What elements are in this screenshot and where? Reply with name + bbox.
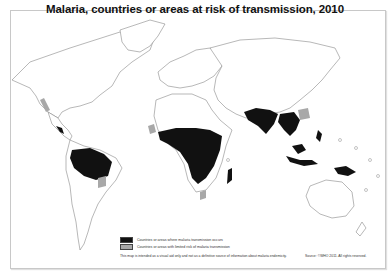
limited-risk-north-africa [148, 124, 156, 134]
greenland [120, 20, 165, 52]
legend-item-limited-risk: Countries or areas with limited risk of … [120, 243, 230, 250]
disclaimer-note: This map is intended as a visual aid onl… [120, 254, 287, 258]
legend-label: Countries or areas with limited risk of … [137, 245, 230, 249]
limited-risk-brazil [98, 176, 106, 188]
asia [210, 38, 340, 118]
world-map [0, 0, 390, 276]
source-credit: Source: ©WHO 2011. All rights reserved. [305, 254, 366, 258]
transmission-south-asia [244, 108, 278, 134]
europe [158, 48, 222, 88]
central-america [48, 112, 72, 140]
transmission-png [334, 166, 356, 176]
limited-risk-swatch [120, 244, 133, 250]
transmission-southeast-asia [278, 112, 300, 136]
transmission-philippines [316, 130, 322, 142]
map-legend: Countries or areas where malaria transmi… [120, 236, 230, 250]
transmission-borneo [292, 144, 306, 154]
new-zealand [356, 222, 366, 236]
legend-label: Countries or areas where malaria transmi… [137, 238, 223, 242]
legend-item-transmission: Countries or areas where malaria transmi… [120, 236, 230, 243]
transmission-madagascar [227, 168, 232, 184]
limited-risk-china [298, 108, 310, 120]
transmission-indonesia [286, 156, 318, 166]
transmission-swatch [120, 237, 133, 243]
australia [306, 180, 354, 218]
limited-risk-south-africa [200, 190, 206, 200]
